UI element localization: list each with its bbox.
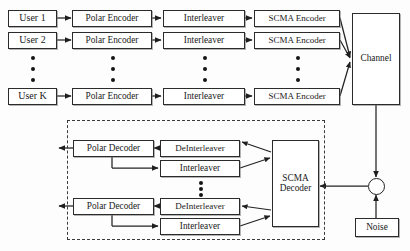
user-2-block[interactable]: User 2 bbox=[8, 32, 57, 49]
polar-encoder-block-k[interactable]: Polar Encoder bbox=[72, 88, 152, 105]
scma-decoder-label-line2: Decoder bbox=[280, 184, 312, 194]
ellipsis-dot bbox=[111, 67, 115, 71]
ellipsis-polar-encoders bbox=[110, 56, 115, 82]
ellipsis-dot bbox=[111, 78, 115, 82]
interleaver-block-1[interactable]: Interleaver bbox=[163, 10, 245, 27]
scma-encoder-block-2[interactable]: SCMA Encoder bbox=[254, 32, 340, 49]
polar-encoder-block-1[interactable]: Polar Encoder bbox=[72, 10, 152, 27]
polar-encoder-label-k: Polar Encoder bbox=[86, 92, 139, 102]
interleaver-label-1: Interleaver bbox=[184, 14, 224, 24]
ellipsis-dot bbox=[31, 78, 35, 82]
scma-encoder-block-1[interactable]: SCMA Encoder bbox=[254, 10, 340, 27]
scma-encoder-block-k[interactable]: SCMA Encoder bbox=[254, 88, 340, 105]
ellipsis-dot bbox=[111, 56, 115, 60]
ellipsis-users bbox=[30, 56, 35, 82]
channel-block[interactable]: Channel bbox=[352, 13, 400, 105]
interleaver-label-k: Interleaver bbox=[184, 92, 224, 102]
noise-label: Noise bbox=[366, 223, 388, 233]
ellipsis-scma-encoders bbox=[295, 56, 300, 82]
user-1-label: User 1 bbox=[19, 13, 45, 24]
ellipsis-dot bbox=[296, 67, 300, 71]
ellipsis-dot bbox=[31, 67, 35, 71]
interleaver-block-k[interactable]: Interleaver bbox=[163, 88, 245, 105]
interleaver-label-2: Interleaver bbox=[184, 36, 224, 46]
ellipsis-interleavers bbox=[202, 56, 207, 82]
ellipsis-dot bbox=[203, 67, 207, 71]
summing-junction bbox=[368, 178, 385, 195]
ellipsis-dot bbox=[199, 181, 203, 185]
ellipsis-dot bbox=[199, 187, 203, 191]
deinterleaver-label-2: DeInterleaver bbox=[175, 202, 224, 211]
polar-encoder-block-2[interactable]: Polar Encoder bbox=[72, 32, 152, 49]
user-k-block[interactable]: User K bbox=[8, 88, 57, 105]
scma-encoder-label-2: SCMA Encoder bbox=[268, 36, 325, 45]
polar-encoder-label-1: Polar Encoder bbox=[86, 14, 139, 24]
ellipsis-dot bbox=[203, 78, 207, 82]
block-diagram-canvas: User 1 Polar Encoder Interleaver SCMA En… bbox=[0, 0, 410, 251]
user-1-block[interactable]: User 1 bbox=[8, 10, 57, 27]
deinterleaver-label-1: DeInterleaver bbox=[175, 144, 224, 153]
receiver-interleaver-label-2: Interleaver bbox=[180, 222, 220, 232]
deinterleaver-block-2[interactable]: DeInterleaver bbox=[160, 198, 240, 215]
scma-decoder-block[interactable]: SCMA Decoder bbox=[272, 140, 319, 227]
ellipsis-dot bbox=[296, 78, 300, 82]
ellipsis-dot bbox=[296, 56, 300, 60]
ellipsis-dot bbox=[203, 56, 207, 60]
ellipsis-dot bbox=[31, 56, 35, 60]
polar-decoder-label-1: Polar Decoder bbox=[87, 144, 140, 154]
polar-decoder-label-2: Polar Decoder bbox=[87, 202, 140, 212]
receiver-interleaver-block-1[interactable]: Interleaver bbox=[160, 160, 240, 177]
scma-encoder-label-1: SCMA Encoder bbox=[268, 14, 325, 23]
deinterleaver-block-1[interactable]: DeInterleaver bbox=[160, 140, 240, 157]
receiver-interleaver-block-2[interactable]: Interleaver bbox=[160, 218, 240, 235]
ellipsis-dot bbox=[199, 193, 203, 197]
scma-encoder-label-k: SCMA Encoder bbox=[268, 92, 325, 101]
channel-label: Channel bbox=[361, 54, 392, 64]
ellipsis-receiver bbox=[198, 181, 203, 197]
polar-encoder-label-2: Polar Encoder bbox=[86, 36, 139, 46]
interleaver-block-2[interactable]: Interleaver bbox=[163, 32, 245, 49]
user-k-label: User K bbox=[18, 91, 47, 102]
polar-decoder-block-2[interactable]: Polar Decoder bbox=[73, 198, 154, 215]
noise-block[interactable]: Noise bbox=[355, 218, 399, 237]
receiver-interleaver-label-1: Interleaver bbox=[180, 164, 220, 174]
user-2-label: User 2 bbox=[19, 35, 45, 46]
polar-decoder-block-1[interactable]: Polar Decoder bbox=[73, 140, 154, 157]
